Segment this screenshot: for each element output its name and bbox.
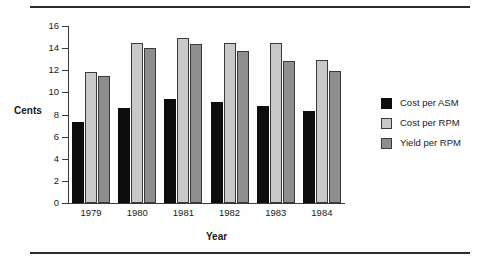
chart-page: Cents Year 0246810121416 197919801981198… [0, 0, 486, 268]
bar [237, 51, 249, 203]
y-tick-mark [62, 181, 68, 182]
x-tick-label: 1983 [265, 208, 286, 218]
bar-group [72, 26, 110, 203]
bar [283, 61, 295, 203]
y-tick-mark [62, 203, 68, 204]
y-tick-label: 0 [54, 198, 59, 208]
plot-area: 0246810121416 197919801981198219831984 [68, 26, 345, 204]
y-tick-mark [62, 48, 68, 49]
bar [257, 106, 269, 203]
x-tick-label: 1982 [219, 208, 240, 218]
top-rule [30, 6, 470, 8]
x-tick-label: 1981 [173, 208, 194, 218]
bar [72, 122, 84, 203]
legend-item: Yield per RPM [381, 133, 461, 153]
legend-label: Cost per ASM [400, 98, 459, 108]
bar [190, 44, 202, 203]
legend-swatch [381, 138, 392, 149]
legend-item: Cost per ASM [381, 93, 461, 113]
bar [211, 102, 223, 203]
x-tick-label: 1979 [81, 208, 102, 218]
bar-group [303, 26, 341, 203]
legend-swatch [381, 98, 392, 109]
x-tick-label: 1980 [127, 208, 148, 218]
y-tick-label: 16 [48, 21, 59, 31]
y-tick-label: 2 [54, 176, 59, 186]
bar-group [164, 26, 202, 203]
y-tick-label: 12 [48, 66, 59, 76]
bar [131, 43, 143, 203]
y-tick-label: 4 [54, 154, 59, 164]
x-tick-label: 1984 [311, 208, 332, 218]
y-tick-mark [62, 137, 68, 138]
bar [85, 72, 97, 203]
bar [270, 43, 282, 203]
bar [98, 76, 110, 203]
y-tick-mark [62, 26, 68, 27]
x-axis-line [68, 203, 345, 204]
bar [303, 111, 315, 203]
legend-swatch [381, 118, 392, 129]
y-axis-line [68, 26, 69, 204]
x-axis-label: Year [206, 232, 227, 242]
bottom-rule [30, 252, 470, 254]
bar-group [257, 26, 295, 203]
y-tick-mark [62, 70, 68, 71]
bar [177, 38, 189, 203]
bar [224, 43, 236, 203]
bar [118, 108, 130, 203]
bar-group [118, 26, 156, 203]
y-tick-mark [62, 159, 68, 160]
legend-label: Yield per RPM [400, 138, 461, 148]
bar-group [211, 26, 249, 203]
y-tick-label: 10 [48, 88, 59, 98]
chart-legend: Cost per ASMCost per RPMYield per RPM [381, 93, 461, 153]
y-tick-label: 6 [54, 132, 59, 142]
bar [164, 99, 176, 203]
bar [144, 48, 156, 203]
bar [329, 71, 341, 203]
y-tick-mark [62, 92, 68, 93]
y-tick-label: 14 [48, 43, 59, 53]
legend-label: Cost per RPM [400, 118, 460, 128]
legend-item: Cost per RPM [381, 113, 461, 133]
y-tick-mark [62, 115, 68, 116]
y-axis-label: Cents [14, 106, 42, 116]
y-tick-label: 8 [54, 110, 59, 120]
bar [316, 60, 328, 203]
